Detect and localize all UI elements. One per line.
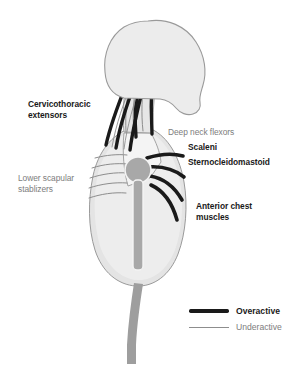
- legend-label-underactive: Underactive: [230, 322, 282, 332]
- sternum-bar: [133, 180, 143, 270]
- legend: Overactive Underactive: [188, 303, 292, 335]
- label-anterior-chest-muscles: Anterior chest muscles: [196, 201, 292, 224]
- label-sternocleidomastoid: Sternocleidomastoid: [188, 157, 295, 168]
- shoulder-joint: [125, 157, 151, 183]
- label-scaleni: Scaleni: [188, 142, 293, 153]
- overactive-line-swatch-icon: [188, 309, 230, 312]
- legend-label-overactive: Overactive: [230, 306, 280, 316]
- upper-limb: [127, 283, 143, 364]
- humeral-head: [125, 157, 151, 183]
- label-deep-neck-flexors: Deep neck flexors: [168, 127, 290, 138]
- legend-item-underactive: Underactive: [188, 319, 292, 335]
- legend-item-overactive: Overactive: [188, 303, 292, 319]
- label-cervicothoracic-extensors: Cervicothoracic extensors: [28, 99, 128, 122]
- diagram-canvas: Cervicothoracic extensors Lower scapular…: [0, 0, 295, 369]
- label-lower-scapular-stablizers: Lower scapular stablizers: [18, 173, 114, 196]
- limb-shaft: [127, 283, 143, 364]
- sternum: [133, 180, 143, 270]
- underactive-line-swatch-icon: [188, 327, 230, 328]
